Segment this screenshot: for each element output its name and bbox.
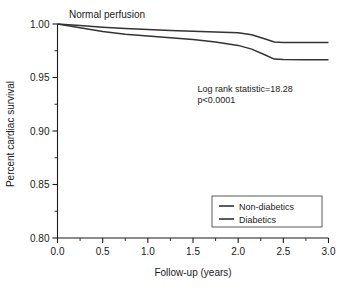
legend-label-diabetics: Diabetics bbox=[239, 215, 277, 225]
survival-curves bbox=[58, 24, 329, 60]
panel-title: Normal perfusion bbox=[69, 9, 145, 20]
y-tick-label: 0.95 bbox=[30, 72, 50, 83]
legend: Non-diabeticsDiabetics bbox=[212, 196, 322, 227]
y-tick-label: 0.85 bbox=[30, 179, 50, 190]
cardiac-survival-line-chart: 0.800.850.900.951.00 0.00.51.01.52.02.53… bbox=[0, 0, 339, 290]
x-tick-label: 3.0 bbox=[322, 246, 336, 257]
x-tick-label: 1.5 bbox=[186, 246, 200, 257]
y-axis-tick-labels: 0.800.850.900.951.00 bbox=[30, 19, 50, 244]
x-tick-label: 2.0 bbox=[231, 246, 245, 257]
x-axis-title: Follow-up (years) bbox=[154, 267, 231, 278]
figure-container: 0.800.850.900.951.00 0.00.51.01.52.02.53… bbox=[0, 0, 339, 290]
y-axis-title: Percent cardiac survival bbox=[5, 81, 16, 187]
statistics-annotation: Log rank statistic=18.28p<0.0001 bbox=[198, 84, 293, 104]
x-tick-label: 0.5 bbox=[96, 246, 110, 257]
y-tick-label: 0.90 bbox=[30, 126, 50, 137]
y-tick-label: 0.80 bbox=[30, 233, 50, 244]
annotation-text: Log rank statistic=18.28 bbox=[198, 84, 293, 94]
y-tick-label: 1.00 bbox=[30, 19, 50, 30]
x-tick-label: 1.0 bbox=[141, 246, 155, 257]
x-axis-tick-labels: 0.00.51.01.52.02.53.0 bbox=[51, 246, 336, 257]
x-tick-label: 0.0 bbox=[51, 246, 65, 257]
legend-label-non-diabetics: Non-diabetics bbox=[239, 202, 295, 212]
annotation-text: p<0.0001 bbox=[198, 95, 236, 105]
x-tick-label: 2.5 bbox=[276, 246, 290, 257]
